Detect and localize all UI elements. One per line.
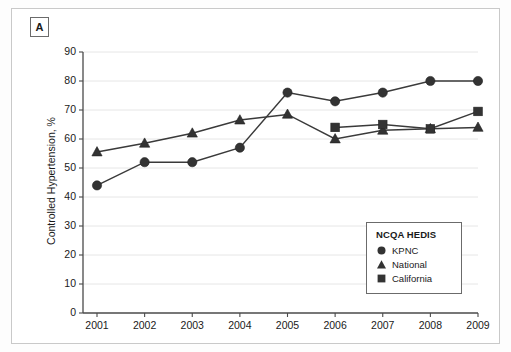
y-tick-label: 70 <box>64 103 76 115</box>
data-point-california <box>331 123 340 132</box>
series-line-national <box>97 114 478 152</box>
data-point-kpnc <box>92 181 101 190</box>
y-tick-label: 50 <box>64 161 76 173</box>
legend-label-california: California <box>392 273 432 284</box>
legend-label-national: National <box>392 259 427 270</box>
series-line-california <box>335 111 478 128</box>
data-point-kpnc <box>188 158 197 167</box>
y-tick-label: 30 <box>64 219 76 231</box>
legend-item-kpnc: KPNC <box>376 243 461 257</box>
legend-title: NCQA HEDIS <box>376 229 461 240</box>
data-point-national <box>473 122 483 131</box>
y-tick-label: 10 <box>64 277 76 289</box>
x-tick-label: 2002 <box>133 319 157 331</box>
data-point-kpnc <box>473 76 482 85</box>
x-tick-label: 2004 <box>228 319 252 331</box>
y-tick-label: 40 <box>64 190 76 202</box>
square-marker-icon <box>376 273 387 284</box>
x-tick-label: 2006 <box>323 319 347 331</box>
figure-root: A Controlled Hypertension, % 01020304050… <box>0 0 511 352</box>
legend-item-california: California <box>376 271 461 285</box>
y-tick-label: 90 <box>64 45 76 57</box>
y-tick-label: 20 <box>64 248 76 260</box>
legend-label-kpnc: KPNC <box>392 245 418 256</box>
triangle-marker-icon <box>376 259 387 270</box>
x-tick-label: 2001 <box>85 319 109 331</box>
x-tick-label: 2007 <box>371 319 395 331</box>
data-point-kpnc <box>235 143 244 152</box>
data-point-california <box>426 125 435 134</box>
data-point-kpnc <box>378 88 387 97</box>
data-point-kpnc <box>140 158 149 167</box>
chart-plot: 0102030405060708090200120022003200420052… <box>0 0 511 352</box>
data-point-california <box>378 120 387 129</box>
data-point-kpnc <box>283 88 292 97</box>
x-tick-label: 2003 <box>181 319 205 331</box>
y-tick-label: 60 <box>64 132 76 144</box>
x-tick-label: 2009 <box>466 319 490 331</box>
x-tick-label: 2005 <box>276 319 300 331</box>
data-point-california <box>474 107 483 116</box>
chart-legend: NCQA HEDIS KPNC National California <box>366 222 462 294</box>
circle-marker-icon <box>376 245 387 256</box>
data-point-kpnc <box>426 76 435 85</box>
x-tick-label: 2008 <box>419 319 443 331</box>
y-tick-label: 80 <box>64 74 76 86</box>
data-point-kpnc <box>331 97 340 106</box>
legend-item-national: National <box>376 257 461 271</box>
y-tick-label: 0 <box>70 306 76 318</box>
